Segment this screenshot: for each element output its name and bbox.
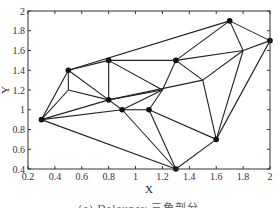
triangle-edge [176,21,230,61]
data-point [173,58,179,64]
x-axis-label: X [145,183,153,195]
figure-caption: (a) Delaunay 三角剖分 [0,199,278,208]
triangle-edge [68,21,229,70]
x-tick-label: 1.6 [210,171,223,182]
triangulation-edges [41,21,270,169]
y-tick-label: 1 [20,104,25,115]
data-point [146,107,152,113]
triangle-edge [176,60,203,80]
data-point [227,18,233,24]
triangle-edge [41,120,175,169]
triangle-edge [216,51,243,140]
x-tick-label: 0.4 [49,171,62,182]
triangle-edge [41,100,108,120]
x-tick-label: 2 [268,171,273,182]
triangle-edge [109,80,203,100]
triangle-edge [41,110,122,120]
data-point [39,117,45,123]
y-tick-label: 1.8 [13,25,26,36]
y-tick-label: 0.4 [13,164,26,175]
triangle-edge [230,21,270,41]
triangle-edge [176,139,216,169]
x-tick-label: 1.2 [156,171,169,182]
x-tick-label: 0.6 [76,171,89,182]
data-points [39,18,273,172]
data-point [119,107,125,113]
y-tick-label: 1.4 [13,65,26,76]
x-tick-label: 1.8 [237,171,250,182]
delaunay-chart: 0.20.40.60.811.21.41.61.82 0.40.60.811.2… [0,0,278,208]
triangle-edge [109,60,163,90]
triangle-edge [176,51,243,61]
x-axis-ticks: 0.20.40.60.811.21.41.61.82 [22,11,273,182]
data-point [66,67,72,73]
triangle-edge [149,110,216,140]
triangle-edge [230,21,243,51]
data-point [213,137,219,143]
triangle-edge [203,80,216,139]
triangle-edge [216,41,270,140]
y-axis-label: Y [0,86,11,94]
y-tick-label: 1.6 [13,45,26,56]
data-point [106,58,112,64]
x-tick-label: 1.4 [183,171,196,182]
x-tick-label: 1 [133,171,138,182]
y-tick-label: 1.2 [13,85,26,96]
data-point [106,97,112,103]
x-tick-label: 0.8 [102,171,115,182]
plot-frame [28,11,270,169]
y-tick-label: 0.8 [13,124,26,135]
triangle-edge [162,60,175,90]
triangle-edge [203,51,243,81]
y-tick-label: 2 [20,6,25,17]
y-tick-label: 0.6 [13,144,26,155]
